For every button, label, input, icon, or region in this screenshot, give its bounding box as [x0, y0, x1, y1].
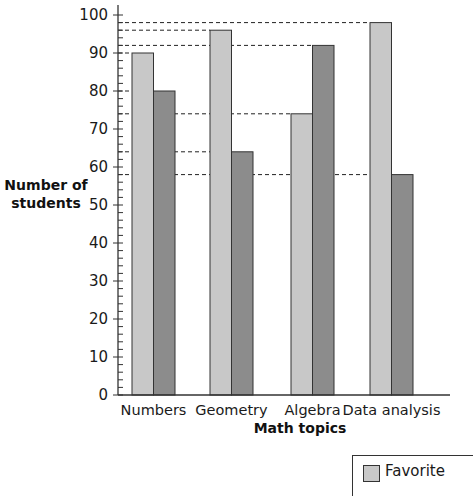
bar-numbers-favorite: [132, 53, 154, 395]
y-tick-label: 10: [89, 348, 108, 366]
bar-algebra-second: [313, 45, 335, 395]
y-axis-title: Number of students: [0, 176, 92, 212]
legend-label-favorite: Favorite: [385, 462, 445, 480]
y-tick-label: 30: [89, 272, 108, 290]
y-tick-label: 0: [98, 386, 108, 404]
bar-algebra-favorite: [291, 114, 313, 395]
y-tick-label: 80: [89, 82, 108, 100]
y-tick-label: 60: [89, 158, 108, 176]
y-axis-title-line2: students: [0, 194, 92, 212]
y-axis-title-line1: Number of: [0, 176, 92, 194]
x-axis-categories: NumbersGeometryAlgebraData analysis: [121, 402, 441, 418]
bars: [132, 23, 413, 395]
x-axis-title: Math topics: [220, 420, 380, 436]
legend: Favorite: [352, 455, 473, 496]
y-tick-label: 100: [79, 6, 108, 24]
x-category-label: Geometry: [195, 402, 268, 418]
y-tick-label: 70: [89, 120, 108, 138]
x-category-label: Numbers: [121, 402, 187, 418]
y-tick-label: 20: [89, 310, 108, 328]
x-category-label: Algebra: [284, 402, 340, 418]
bar-data-analysis-favorite: [370, 23, 392, 395]
y-tick-label: 40: [89, 234, 108, 252]
y-tick-label: 90: [89, 44, 108, 62]
bar-geometry-second: [232, 152, 254, 395]
x-category-label: Data analysis: [343, 402, 441, 418]
bar-data-analysis-second: [392, 175, 414, 395]
legend-swatch-favorite: [363, 465, 380, 482]
bar-geometry-favorite: [210, 30, 232, 395]
bar-numbers-second: [154, 91, 176, 395]
